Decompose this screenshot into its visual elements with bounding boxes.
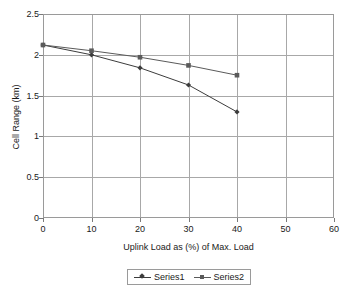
x-axis-title: Uplink Load as (%) of Max. Load (43, 242, 334, 252)
legend-entry-series2[interactable]: Series2 (194, 273, 245, 282)
y-tick-mark (39, 218, 43, 219)
x-tick-label: 0 (28, 225, 58, 234)
y-tick-mark (39, 55, 43, 56)
x-tick-label: 40 (222, 225, 252, 234)
gridline-vertical (189, 15, 190, 217)
chart-container: 00.511.522.5 0102030405060 Uplink Load a… (0, 0, 348, 294)
x-tick-mark (92, 218, 93, 222)
legend-entry-series1[interactable]: Series1 (134, 273, 185, 282)
gridline-vertical (140, 15, 141, 217)
gridline-vertical (286, 15, 287, 217)
x-tick-mark (43, 218, 44, 222)
plot-area (43, 14, 334, 218)
gridline-vertical (92, 15, 93, 217)
x-tick-mark (140, 218, 141, 222)
y-axis-title: Cell Range (km) (11, 52, 21, 182)
y-tick-mark (39, 96, 43, 97)
legend-marker-square-icon (194, 273, 211, 282)
x-tick-label: 10 (77, 225, 107, 234)
legend-marker-diamond-icon (134, 273, 151, 282)
x-tick-label: 30 (174, 225, 204, 234)
gridline-vertical (237, 15, 238, 217)
x-tick-mark (286, 218, 287, 222)
y-tick-mark (39, 136, 43, 137)
x-tick-label: 50 (271, 225, 301, 234)
chart-legend: Series1Series2 (127, 269, 251, 285)
y-tick-label: 0 (5, 214, 39, 223)
x-tick-mark (237, 218, 238, 222)
legend-label: Series1 (154, 273, 185, 282)
x-tick-label: 20 (125, 225, 155, 234)
legend-label: Series2 (214, 273, 245, 282)
y-tick-mark (39, 14, 43, 15)
y-tick-label: 2.5 (5, 10, 39, 19)
y-tick-mark (39, 177, 43, 178)
x-tick-label: 60 (319, 225, 348, 234)
x-tick-mark (334, 218, 335, 222)
x-tick-mark (189, 218, 190, 222)
